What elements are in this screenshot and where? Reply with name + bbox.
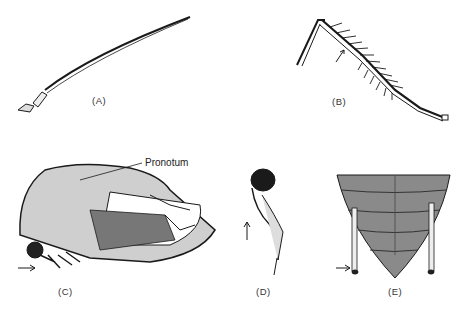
- panel-d-label: (D): [256, 286, 271, 297]
- panel-b-leg-drawing: [297, 20, 448, 121]
- panel-c-label: (C): [58, 286, 73, 297]
- panel-b-label: (B): [332, 96, 346, 107]
- pronotum-annotation: Pronotum: [145, 157, 188, 168]
- panel-c-insect-drawing: [18, 163, 215, 271]
- figure: (A) (B) (C) (D) (E) Pronotum: [0, 0, 468, 309]
- panel-e-abdomen-drawing: [336, 175, 450, 278]
- panel-e-label: (E): [388, 286, 402, 297]
- panel-d-head-drawing: [244, 169, 283, 275]
- panel-a-label: (A): [92, 95, 106, 106]
